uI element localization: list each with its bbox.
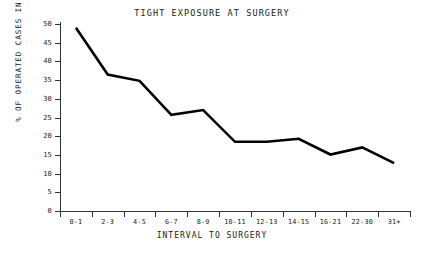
series-polyline	[76, 28, 394, 163]
x-axis-title: INTERVAL TO SURGERY	[0, 231, 424, 240]
data-series-line	[0, 0, 424, 255]
chart-figure: TIGHT EXPOSURE AT SURGERY % OF OPERATED …	[0, 0, 424, 255]
